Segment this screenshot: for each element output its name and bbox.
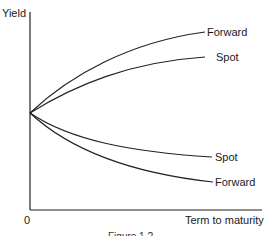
spot-curve-rising: [30, 57, 205, 113]
origin-label: 0: [24, 214, 30, 226]
forward-falling-label: Forward: [215, 176, 255, 188]
spot-falling-label: Spot: [215, 151, 238, 163]
y-axis-label: Yield: [2, 7, 26, 19]
forward-rising-label: Forward: [207, 26, 247, 38]
figure-caption: Figure 1.?: [108, 231, 153, 236]
spot-curve-falling: [30, 113, 212, 157]
forward-curve-falling: [30, 113, 213, 182]
x-axis-label: Term to maturity: [185, 214, 264, 226]
yield-curve-chart: Yield 0 Term to maturity Forward Spot Sp…: [0, 0, 270, 236]
spot-rising-label: Spot: [216, 51, 239, 63]
